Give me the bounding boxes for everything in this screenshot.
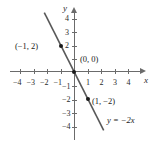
data-point-label-1-neg2: (1, −2) — [92, 97, 115, 106]
data-point-neg1-2 — [59, 44, 63, 48]
y-tick-mark — [72, 113, 77, 114]
x-tick-label-neg2: −2 — [40, 79, 49, 87]
x-tick-label-4: 4 — [127, 79, 131, 87]
y-tick-label-neg3: −3 — [62, 110, 71, 118]
y-tick-mark — [72, 100, 77, 101]
x-tick-mark — [101, 69, 102, 74]
y-tick-mark — [72, 19, 77, 20]
data-point-label-neg1-2: (−1, 2) — [15, 42, 38, 51]
x-tick-label-neg3: −3 — [27, 79, 36, 87]
data-point-0-0 — [72, 70, 76, 74]
y-tick-mark — [72, 32, 77, 33]
x-axis-arrow-icon — [140, 68, 146, 74]
x-tick-mark — [88, 69, 89, 74]
x-tick-mark — [47, 69, 48, 74]
x-axis-label: x — [144, 76, 148, 85]
x-tick-label-1: 1 — [86, 79, 90, 87]
y-tick-label-neg1: −1 — [62, 83, 71, 91]
x-tick-mark — [61, 69, 62, 74]
data-point-1-neg2 — [86, 97, 90, 101]
y-axis-label: y — [63, 4, 67, 13]
x-tick-mark — [115, 69, 116, 74]
x-tick-mark — [34, 69, 35, 74]
y-tick-mark — [72, 59, 77, 60]
data-point-label-0-0: (0, 0) — [80, 55, 98, 64]
x-tick-label-neg4: −4 — [13, 79, 22, 87]
y-tick-label-3: 3 — [65, 29, 69, 37]
x-tick-label-neg1: −1 — [54, 79, 63, 87]
y-tick-label-4: 4 — [65, 15, 69, 23]
coordinate-plane-chart: −4 −3 −2 −1 1 2 3 4 4 3 2 −1 −2 −3 −4 y … — [0, 0, 156, 147]
x-tick-mark — [128, 69, 129, 74]
y-tick-label-neg4: −4 — [62, 123, 71, 131]
equation-annotation: y = −2x — [107, 116, 135, 125]
y-tick-label-2: 2 — [65, 42, 69, 50]
x-tick-label-2: 2 — [100, 79, 104, 87]
y-tick-mark — [72, 46, 77, 47]
y-axis-arrow-icon — [71, 7, 77, 13]
y-tick-mark — [72, 86, 77, 87]
x-tick-mark — [20, 69, 21, 74]
x-tick-label-3: 3 — [113, 79, 117, 87]
y-tick-label-neg2: −2 — [62, 96, 71, 104]
y-tick-mark — [72, 127, 77, 128]
